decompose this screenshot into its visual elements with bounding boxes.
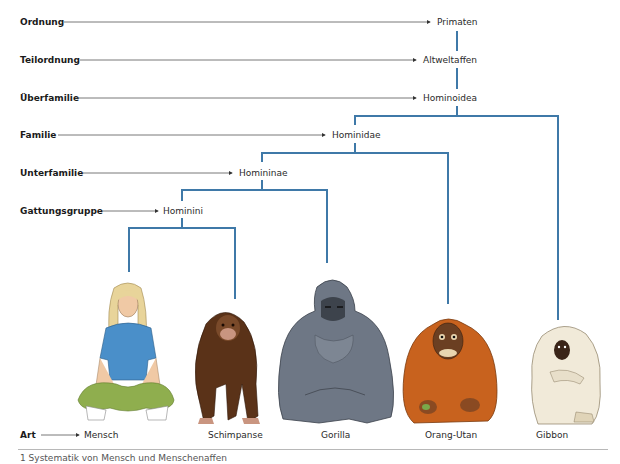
species-label-gorilla: Gorilla — [321, 430, 350, 441]
species-label-schimpanse: Schimpanse — [208, 430, 263, 441]
taxon-altweltaffen: Altweltaffen — [423, 55, 477, 66]
divider — [18, 449, 608, 450]
species-label-gibbon: Gibbon — [536, 430, 568, 441]
orangutan-icon — [402, 315, 498, 427]
species-label-mensch: Mensch — [84, 430, 118, 441]
taxon-homininae: Homininae — [239, 168, 288, 179]
taxon-primaten: Primaten — [437, 17, 478, 28]
gorilla-icon — [275, 277, 395, 427]
species-label-orang-utan: Orang-Utan — [425, 430, 477, 441]
gibbon-icon — [528, 322, 604, 428]
figure-caption: 1 Systematik von Mensch und Menschenaffe… — [20, 453, 227, 464]
taxon-hominini: Hominini — [163, 206, 203, 217]
taxon-hominoidea: Hominoidea — [423, 93, 477, 104]
taxon-hominidae: Hominidae — [332, 130, 381, 141]
chimpanzee-icon — [186, 304, 262, 426]
human-sitting-icon — [76, 280, 176, 425]
